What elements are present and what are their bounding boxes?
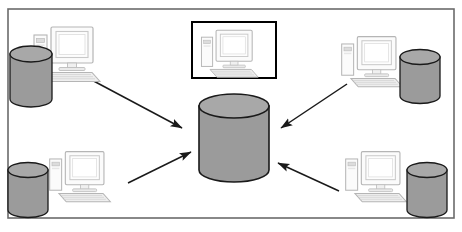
central-database[interactable]: [199, 94, 269, 182]
diagram-canvas: [0, 0, 462, 232]
database-cylinder-icon: [400, 50, 440, 104]
database-cylinder-icon: [8, 163, 48, 218]
workstation-top-center[interactable]: [192, 22, 276, 78]
network-diagram: Client workstations connecting to a cent…: [0, 0, 462, 232]
database-cylinder-icon: [10, 46, 52, 107]
database-cylinder-icon: [407, 163, 447, 218]
